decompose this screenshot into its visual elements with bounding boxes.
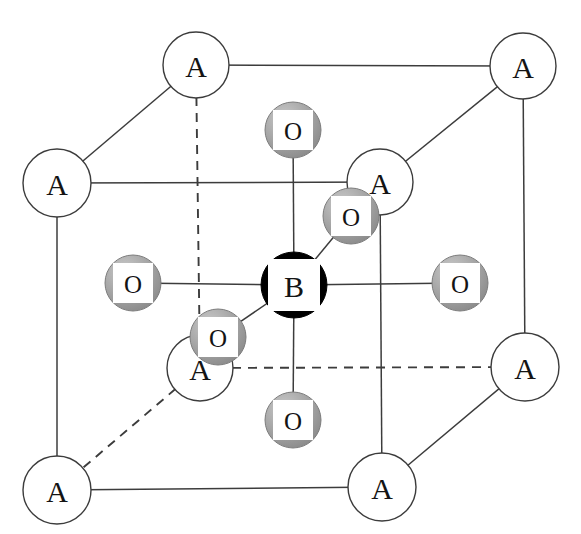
o-site-label: O xyxy=(284,118,302,145)
hidden-edge-back-bottom xyxy=(200,367,525,368)
o-site-label: O xyxy=(451,271,469,298)
a-site-back-bottom-right: A xyxy=(491,333,559,401)
b-site-label: B xyxy=(284,270,304,303)
o-site-bottom: O xyxy=(265,392,321,448)
edge-front-top xyxy=(57,182,380,183)
o-site-top: O xyxy=(265,102,321,158)
b-site-atom: B xyxy=(261,252,327,318)
a-site-label: A xyxy=(46,168,68,201)
edge-front-right-vertical xyxy=(380,182,382,487)
a-site-label: A xyxy=(369,167,391,200)
o-site-back: O xyxy=(323,188,379,244)
edge-back-top xyxy=(196,65,523,66)
a-site-label: A xyxy=(512,51,534,84)
crystal-structure-diagram: AAAAAAAA OOOOOO B xyxy=(0,0,581,534)
o-site-left: O xyxy=(105,255,161,311)
a-site-back-top-right: A xyxy=(490,33,556,99)
a-site-label: A xyxy=(514,352,536,385)
a-site-front-bottom-left: A xyxy=(23,456,91,524)
a-site-label: A xyxy=(185,50,207,83)
a-site-front-bottom-right: A xyxy=(348,453,416,521)
o-site-label: O xyxy=(342,204,360,231)
a-site-front-top-left: A xyxy=(23,149,91,217)
o-site-label: O xyxy=(124,271,142,298)
o-site-label: O xyxy=(284,408,302,435)
edge-back-right-vertical xyxy=(523,66,525,367)
o-site-front: O xyxy=(190,309,246,365)
a-site-label: A xyxy=(371,472,393,505)
edge-front-bottom xyxy=(57,487,382,490)
a-site-label: A xyxy=(46,475,68,508)
figure-canvas: AAAAAAAA OOOOOO B xyxy=(0,0,581,534)
o-site-label: O xyxy=(209,325,227,352)
a-site-back-top-left: A xyxy=(163,32,229,98)
b-site-center: B xyxy=(261,252,327,318)
o-site-right: O xyxy=(432,255,488,311)
